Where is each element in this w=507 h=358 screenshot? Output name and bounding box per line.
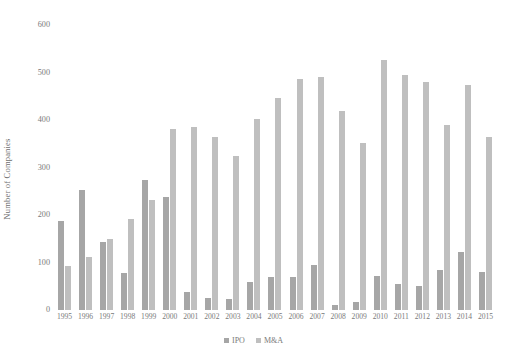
bar-manda-2015 — [486, 137, 492, 310]
bar-group-2005 — [264, 25, 285, 310]
bar-manda-2003 — [233, 156, 239, 310]
bar-ipo-2010 — [374, 276, 380, 310]
x-tick-2004: 2004 — [246, 312, 261, 322]
bar-manda-2011 — [402, 75, 408, 310]
bar-ipo-2014 — [458, 252, 464, 310]
legend-item-ipo[interactable]: IPO — [224, 336, 245, 345]
y-tick-0: 0 — [18, 306, 50, 314]
x-tick-1995: 1995 — [57, 312, 72, 322]
x-tick-2001: 2001 — [183, 312, 198, 322]
bar-group-2001 — [180, 25, 201, 310]
x-tick-2011: 2011 — [394, 312, 409, 322]
bar-group-2012 — [412, 25, 433, 310]
bar-manda-2006 — [297, 79, 303, 310]
x-tick-1998: 1998 — [120, 312, 135, 322]
bar-ipo-2015 — [479, 272, 485, 310]
x-tick-2005: 2005 — [267, 312, 282, 322]
bar-ipo-2001 — [184, 292, 190, 310]
bar-group-2008 — [328, 25, 349, 310]
legend-swatch-icon — [224, 338, 229, 343]
bar-ipo-2004 — [247, 282, 253, 310]
bar-group-2000 — [159, 25, 180, 310]
bar-manda-2000 — [170, 129, 176, 310]
legend-label: M&A — [264, 336, 283, 345]
legend-swatch-icon — [256, 338, 261, 343]
bar-ipo-2012 — [416, 286, 422, 310]
y-tick-100: 100 — [18, 259, 50, 267]
bar-group-2007 — [307, 25, 328, 310]
x-tick-2006: 2006 — [288, 312, 303, 322]
bar-ipo-2000 — [163, 197, 169, 310]
bar-manda-1996 — [86, 257, 92, 310]
legend-item-manda[interactable]: M&A — [256, 336, 283, 345]
bar-ipo-2013 — [437, 270, 443, 310]
y-tick-200: 200 — [18, 211, 50, 219]
bar-manda-2010 — [381, 60, 387, 310]
bar-manda-2014 — [465, 85, 471, 310]
bar-group-2011 — [391, 25, 412, 310]
x-tick-2014: 2014 — [457, 312, 472, 322]
x-tick-1996: 1996 — [78, 312, 93, 322]
bar-ipo-2005 — [268, 277, 274, 310]
bar-manda-2008 — [339, 111, 345, 310]
bar-ipo-2002 — [205, 298, 211, 310]
bar-manda-1998 — [128, 219, 134, 310]
bar-group-1998 — [117, 25, 138, 310]
x-tick-2007: 2007 — [310, 312, 325, 322]
x-tick-2015: 2015 — [478, 312, 493, 322]
bar-manda-2002 — [212, 137, 218, 310]
x-tick-2000: 2000 — [162, 312, 177, 322]
bar-ipo-2003 — [226, 299, 232, 310]
x-tick-2012: 2012 — [415, 312, 430, 322]
bar-chart: Number of Companies 6005004003002001000 … — [0, 0, 507, 358]
bar-group-2015 — [475, 25, 496, 310]
bar-ipo-2009 — [353, 302, 359, 310]
y-tick-600: 600 — [18, 21, 50, 29]
x-tick-1997: 1997 — [99, 312, 114, 322]
bar-ipo-1995 — [58, 221, 64, 310]
bar-group-1995 — [54, 25, 75, 310]
bar-manda-1995 — [65, 266, 71, 310]
bar-manda-1999 — [149, 200, 155, 310]
plot-area — [54, 25, 496, 310]
x-axis-tick-labels: 1995199619971998199920002001200220032004… — [54, 312, 496, 326]
y-axis-tick-labels: 6005004003002001000 — [18, 0, 50, 358]
bar-manda-1997 — [107, 239, 113, 310]
bar-ipo-2007 — [311, 265, 317, 310]
bar-ipo-1998 — [121, 273, 127, 310]
x-tick-2002: 2002 — [204, 312, 219, 322]
x-tick-2003: 2003 — [225, 312, 240, 322]
bar-ipo-1996 — [79, 190, 85, 310]
bar-group-2003 — [222, 25, 243, 310]
bar-group-2009 — [349, 25, 370, 310]
bar-ipo-1997 — [100, 242, 106, 310]
bar-group-2014 — [454, 25, 475, 310]
bar-manda-2005 — [275, 98, 281, 310]
x-tick-2009: 2009 — [352, 312, 367, 322]
x-tick-2013: 2013 — [436, 312, 451, 322]
bar-manda-2013 — [444, 125, 450, 310]
y-tick-400: 400 — [18, 116, 50, 124]
bar-group-2004 — [243, 25, 264, 310]
bar-group-1999 — [138, 25, 159, 310]
y-axis-title: Number of Companies — [2, 0, 16, 358]
bar-ipo-2006 — [290, 277, 296, 310]
y-tick-300: 300 — [18, 164, 50, 172]
x-tick-2010: 2010 — [373, 312, 388, 322]
x-tick-2008: 2008 — [331, 312, 346, 322]
bar-manda-2004 — [254, 119, 260, 310]
bar-group-1997 — [96, 25, 117, 310]
bar-group-2006 — [286, 25, 307, 310]
bar-group-1996 — [75, 25, 96, 310]
bar-ipo-2011 — [395, 284, 401, 310]
chart-legend: IPOM&A — [0, 336, 507, 345]
x-tick-1999: 1999 — [141, 312, 156, 322]
bar-manda-2001 — [191, 127, 197, 310]
bar-manda-2007 — [318, 77, 324, 310]
bar-ipo-2008 — [332, 305, 338, 310]
bar-group-2013 — [433, 25, 454, 310]
bar-ipo-1999 — [142, 180, 148, 310]
legend-label: IPO — [232, 336, 245, 345]
bar-manda-2009 — [360, 143, 366, 310]
bar-group-2002 — [201, 25, 222, 310]
